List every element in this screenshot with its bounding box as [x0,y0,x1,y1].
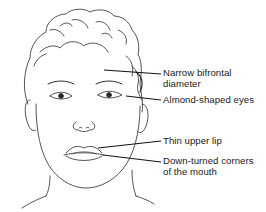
hair-outline [24,9,142,112]
label-down-turned-mouth: Down-turned corners of the mouth [163,156,254,177]
mouth-line [64,153,104,155]
left-eyebrow [48,81,74,84]
nose [73,122,95,132]
label-text: of the mouth [163,167,254,178]
left-ear [25,100,36,131]
face-diagram: Narrow bifrontal diameter Almond-shaped … [0,0,266,212]
face-outline [36,104,140,188]
label-text: Thin upper lip [163,136,222,147]
right-eyebrow [96,81,122,84]
label-text: Down-turned corners [163,156,254,167]
leader-line-mouth-corners [103,155,161,162]
label-bifrontal-diameter: Narrow bifrontal diameter [163,68,232,89]
label-almond-eyes: Almond-shaped eyes [163,95,254,106]
label-text: diameter [163,79,232,90]
label-text: Narrow bifrontal [163,68,232,79]
leader-line-eyes [126,96,161,100]
leader-line-upper-lip [98,141,161,148]
lower-lip [66,156,102,161]
label-text: Almond-shaped eyes [163,95,254,106]
face-illustration [0,0,266,212]
label-thin-upper-lip: Thin upper lip [163,136,222,147]
